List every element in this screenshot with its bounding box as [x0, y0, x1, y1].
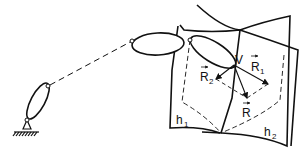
- joint-3: [188, 38, 192, 42]
- svg-text:2: 2: [209, 77, 214, 86]
- svg-text:1: 1: [260, 67, 265, 76]
- ground-support: [13, 120, 39, 136]
- parallelogram-r2: [247, 84, 268, 98]
- vector-r: [234, 65, 247, 98]
- label-r1: R 1: [251, 56, 265, 76]
- svg-text:2: 2: [272, 132, 277, 141]
- label-r: R: [242, 103, 251, 120]
- parallelogram-r1: [216, 79, 247, 98]
- surface-h2: [197, 5, 290, 146]
- link-2: [131, 32, 184, 57]
- intersection-line: [221, 30, 240, 133]
- joint-1: [46, 84, 50, 88]
- joint-base: [25, 118, 29, 122]
- svg-text:R: R: [200, 70, 209, 84]
- label-v: V: [235, 53, 243, 67]
- svg-text:h: h: [176, 113, 183, 127]
- svg-text:R: R: [242, 106, 251, 120]
- svg-text:h: h: [264, 125, 271, 139]
- label-h2: h 2: [264, 125, 277, 141]
- link-3: [186, 30, 241, 75]
- label-h1: h 1: [176, 113, 189, 129]
- svg-text:1: 1: [184, 120, 189, 129]
- diagram-canvas: V R 1 R 2 R h 1 h 2: [0, 0, 303, 150]
- svg-text:R: R: [251, 60, 260, 74]
- dashed-link: [50, 41, 132, 85]
- label-r2: R 2: [200, 67, 214, 86]
- joint-2: [130, 39, 134, 43]
